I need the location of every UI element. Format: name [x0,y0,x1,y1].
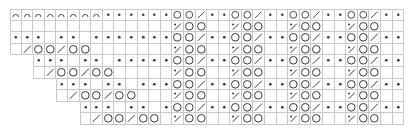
chart-cell [335,113,347,125]
yarn-over-circle-icon [68,44,80,56]
bind-off-arch-icon [91,9,103,21]
chart-cell [126,67,138,79]
purl-dot-icon [161,32,173,44]
chart-cell [381,44,393,56]
yarn-over-circle-icon [346,9,358,21]
chart-cell [207,67,219,79]
purl-dot-icon [219,102,231,114]
decrease-slash-icon [311,32,323,44]
decrease-slash-icon [369,55,381,67]
chart-cell [265,113,277,125]
yarn-over-circle-icon [103,67,115,79]
yarn-over-circle-icon [91,90,103,102]
blank-area [33,79,45,91]
yarn-over-circle-icon [253,113,265,125]
yarn-over-circle-icon [358,44,370,56]
purl-dot-icon [22,32,34,44]
purl-dot-icon [393,32,405,44]
purl-dot-icon [381,9,393,21]
purl-dot-icon [80,102,92,114]
blank-area [22,113,34,125]
purl-dot-icon [91,102,103,114]
yarn-over-circle-icon [196,113,208,125]
chart-cell [265,90,277,102]
chart-cell [68,55,80,67]
chart-cell [335,44,347,56]
purl-dot-icon [393,9,405,21]
chart-cell [91,21,103,33]
purl-dot-icon [335,79,347,91]
chart-cell [323,67,335,79]
yarn-over-circle-icon [172,9,184,21]
chart-cell [68,21,80,33]
decrease-slash-icon [369,32,381,44]
decrease-slash-icon [253,79,265,91]
chart-row [10,9,404,21]
purl-dot-icon [126,32,138,44]
blank-area [22,79,34,91]
purl-dot-icon [138,55,150,67]
yarn-over-circle-icon [149,113,161,125]
chart-cell [277,44,289,56]
yarn-over-circle-icon [68,67,80,79]
purl-dot-icon [219,55,231,67]
chart-cell [45,32,57,44]
purl-dot-icon [45,55,57,67]
purl-dot-icon [126,55,138,67]
chart-cell [114,102,126,114]
yarn-over-circle-icon [184,55,196,67]
purl-dot-icon [265,79,277,91]
yarn-over-circle-icon [288,55,300,67]
yarn-over-circle-icon [288,102,300,114]
purl-dot-icon [323,9,335,21]
chart-cell [219,113,231,125]
decrease-slash-with-dot-icon [288,67,300,79]
yarn-over-circle-icon [300,44,312,56]
purl-dot-icon [114,9,126,21]
chart-row [10,67,404,79]
chart-cell [103,21,115,33]
chart-cell [161,21,173,33]
yarn-over-circle-icon [288,32,300,44]
yarn-over-circle-icon [184,90,196,102]
yarn-over-circle-icon [242,102,254,114]
yarn-over-circle-icon [242,90,254,102]
yarn-over-circle-icon [300,102,312,114]
purl-dot-icon [56,79,68,91]
blank-area [68,113,80,125]
yarn-over-circle-icon [311,67,323,79]
purl-dot-icon [138,102,150,114]
purl-dot-icon [91,55,103,67]
yarn-over-circle-icon [358,79,370,91]
bind-off-arch-icon [56,9,68,21]
purl-dot-icon [80,55,92,67]
blank-area [56,113,68,125]
yarn-over-circle-icon [230,79,242,91]
chart-row [10,32,404,44]
chart-row [10,102,404,114]
purl-dot-icon [277,79,289,91]
chart-cell [219,21,231,33]
yarn-over-circle-icon [80,90,92,102]
purl-dot-icon [138,9,150,21]
chart-cell [323,21,335,33]
purl-dot-icon [323,79,335,91]
purl-dot-icon [335,32,347,44]
decrease-slash-icon [91,113,103,125]
yarn-over-circle-icon [300,55,312,67]
bind-off-arch-icon [45,9,57,21]
chart-cell [265,21,277,33]
blank-area [33,102,45,114]
chart-cell [335,90,347,102]
decrease-slash-icon [45,67,57,79]
yarn-over-circle-icon [196,90,208,102]
purl-dot-icon [149,9,161,21]
decrease-slash-with-dot-icon [346,67,358,79]
yarn-over-circle-icon [358,113,370,125]
purl-dot-icon [335,102,347,114]
decrease-slash-with-dot-icon [346,44,358,56]
chart-cell [381,90,393,102]
purl-dot-icon [138,79,150,91]
blank-area [45,79,57,91]
chart-cell [161,90,173,102]
